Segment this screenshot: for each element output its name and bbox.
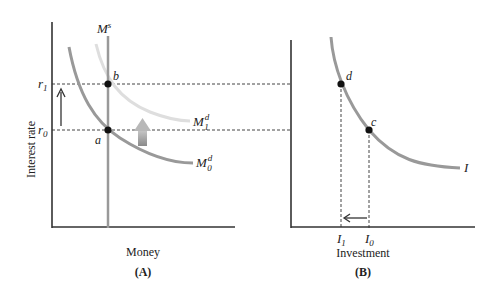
demand-shift-arrow-icon (134, 118, 151, 146)
point-c-label: c (371, 115, 377, 129)
r0-label: r0 (38, 122, 48, 139)
point-b-dot (104, 80, 111, 87)
point-d-dot (337, 80, 344, 87)
x-axis-label-money: Money (126, 245, 160, 259)
money-demand-0-label: Md0 (195, 153, 213, 173)
interest-rate-up-arrow-icon (57, 89, 65, 126)
r1-label: r1 (38, 76, 48, 93)
x-axis-label-investment: Investment (336, 246, 390, 260)
investment-curve (331, 37, 460, 168)
investment-curve-label: I (463, 160, 469, 175)
panel-b: d c I I1 I0 Investment (B) (291, 37, 475, 279)
panel-b-caption: (B) (355, 265, 371, 279)
money-investment-diagram: Ms b a r1 r0 Md1 Md0 Interest rate Money… (0, 0, 497, 292)
money-demand-curve-0 (69, 47, 193, 163)
point-a-label: a (95, 133, 101, 147)
panel-a-caption: (A) (135, 265, 152, 279)
money-supply-label: Ms (96, 20, 112, 36)
point-b-label: b (113, 69, 119, 83)
point-d-label: d (346, 69, 353, 83)
money-demand-1-label: Md1 (192, 112, 210, 132)
panel-a: Ms b a r1 r0 Md1 Md0 Interest rate Money… (24, 20, 291, 279)
y-axis-label-interest-rate: Interest rate (24, 121, 38, 178)
point-a-dot (104, 126, 111, 133)
investment-decrease-arrow-icon (344, 214, 367, 222)
